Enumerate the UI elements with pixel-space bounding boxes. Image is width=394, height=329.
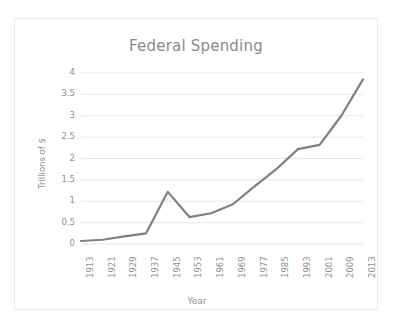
x-tick-label: 1961 — [215, 256, 225, 278]
y-tick-label: 3.5 — [53, 88, 75, 98]
y-tick-label: 2.5 — [53, 131, 75, 141]
x-tick-label: 1945 — [172, 256, 182, 278]
x-tick-label: 1953 — [193, 256, 203, 278]
x-tick-label: 1985 — [280, 256, 290, 278]
x-tick-label: 1969 — [237, 256, 247, 278]
y-tick-label: 2 — [53, 153, 75, 163]
y-tick-label: 0 — [53, 238, 75, 248]
spending-line-series — [81, 79, 363, 241]
y-tick-label: 4 — [53, 67, 75, 77]
gridlines — [81, 73, 363, 244]
y-tick-label: 0.5 — [53, 217, 75, 227]
x-axis-title: Year — [15, 296, 379, 306]
x-tick-label: 1937 — [150, 256, 160, 278]
x-tick-label: 2013 — [367, 256, 377, 278]
x-tick-label: 1913 — [85, 256, 95, 278]
x-tick-label: 1977 — [259, 256, 269, 278]
x-tick-label: 1921 — [107, 256, 117, 278]
y-tick-label: 1 — [53, 195, 75, 205]
x-tick-label: 1993 — [302, 256, 312, 278]
x-tick-label: 2009 — [345, 256, 355, 278]
chart-container: Federal Spending 00.511.522.533.54 19131… — [14, 18, 378, 310]
y-axis-title: Trillions of $ — [37, 138, 47, 189]
x-tick-label: 2001 — [324, 256, 334, 278]
x-tick-label: 1929 — [128, 256, 138, 278]
y-tick-label: 3 — [53, 110, 75, 120]
y-tick-label: 1.5 — [53, 174, 75, 184]
